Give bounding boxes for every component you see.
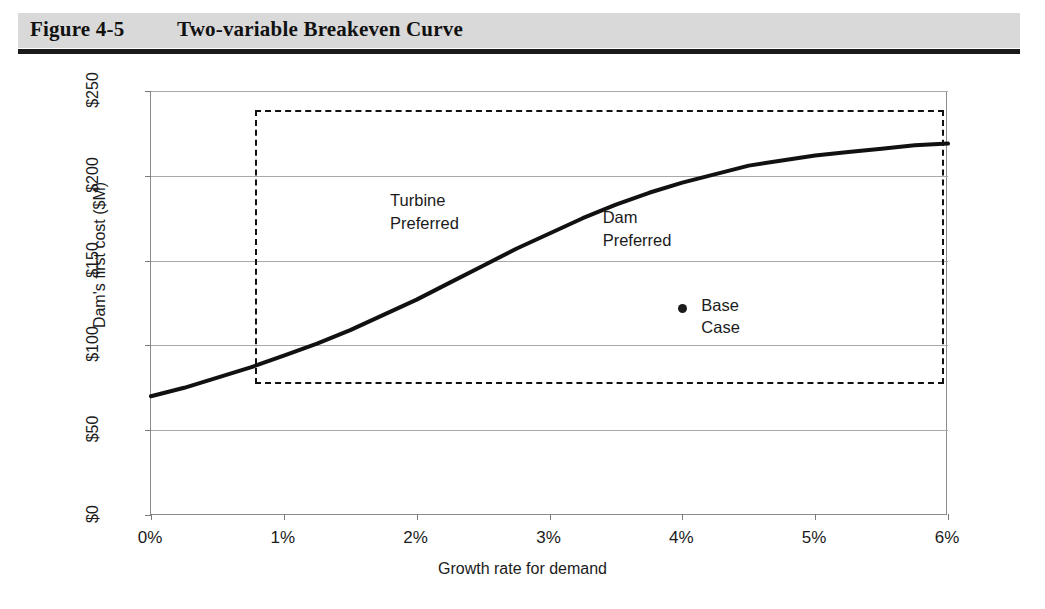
x-axis-tick-label: 5% [784, 528, 844, 548]
plot-area: Turbine Preferred Dam Preferred Base Cas… [150, 91, 947, 515]
figure-header-bar [18, 13, 1020, 48]
base-case-label: Base Case [701, 294, 740, 339]
y-axis-tick-label: $50 [84, 394, 102, 464]
region-label-dam: Dam Preferred [603, 206, 672, 251]
y-axis-tick-label: $0 [84, 479, 102, 549]
breakeven-curve [151, 91, 948, 515]
y-axis-tick-label: $150 [84, 225, 102, 295]
figure-title: Two-variable Breakeven Curve [177, 17, 463, 42]
base-case-marker [678, 304, 687, 313]
region-label-turbine: Turbine Preferred [390, 189, 459, 234]
x-axis-title: Growth rate for demand [0, 560, 1045, 578]
x-axis-tick-label: 6% [917, 528, 977, 548]
x-axis-tick-label: 1% [253, 528, 313, 548]
chart-container: Dam's first cost ($M) Turbine Preferred … [0, 56, 1045, 609]
x-axis-tick-label: 4% [651, 528, 711, 548]
y-axis-tick-label: $250 [84, 55, 102, 125]
x-axis-tick [948, 514, 949, 520]
x-axis-tick-label: 2% [386, 528, 446, 548]
figure-number: Figure 4-5 [30, 17, 124, 42]
x-axis-tick-label: 0% [120, 528, 180, 548]
figure-header-rule [18, 49, 1020, 54]
x-axis-tick-label: 3% [519, 528, 579, 548]
y-axis-tick-label: $200 [84, 140, 102, 210]
y-axis-tick-label: $100 [84, 309, 102, 379]
